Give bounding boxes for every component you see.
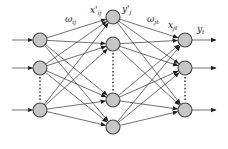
label-x-jt: xjt — [168, 20, 178, 32]
label-y-t: yt — [196, 24, 205, 35]
output-neuron — [178, 103, 192, 117]
connection-edge — [120, 112, 178, 126]
neural-network-diagram: ωij x'ij y'j ωjt xjt yt — [0, 0, 228, 149]
connection-edge — [47, 40, 106, 43]
connection-edge — [45, 72, 107, 122]
output-neuron — [178, 61, 192, 75]
hidden-neuron — [106, 10, 120, 24]
hidden-neuron — [106, 120, 120, 134]
label-w-ij: ωij — [65, 14, 76, 26]
hidden-neuron — [106, 37, 120, 51]
connection-edge — [45, 44, 107, 95]
connection-edge — [46, 71, 106, 97]
input-neuron — [33, 61, 47, 75]
connection-edge — [47, 46, 106, 65]
label-y-prime-j: y'j — [121, 4, 132, 16]
labels: ωij x'ij y'j ωjt xjt yt — [65, 4, 205, 35]
input-neuron — [33, 103, 47, 117]
label-x-prime-ij: x'ij — [90, 5, 101, 17]
connection-edge — [120, 40, 178, 43]
output-neuron — [178, 33, 192, 47]
connection-edge — [118, 73, 179, 123]
label-w-jt: ωjt — [147, 14, 159, 26]
hidden-neuron — [106, 93, 120, 107]
connection-edge — [118, 45, 179, 96]
input-neuron — [33, 33, 47, 47]
